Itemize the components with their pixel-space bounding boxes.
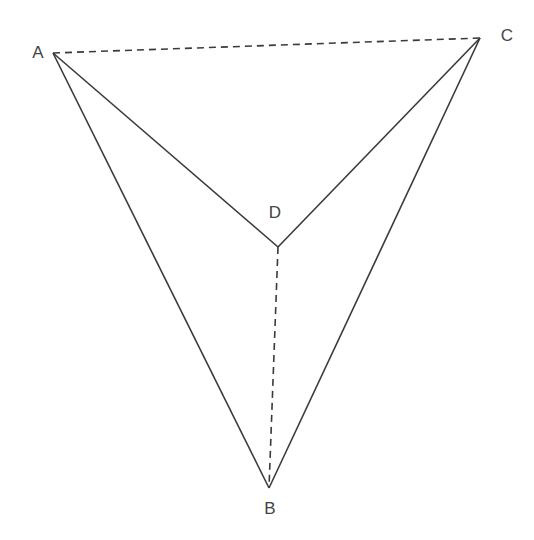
vertex-labels: ABCD (32, 26, 513, 518)
edge-db-dashed (269, 247, 278, 488)
edges (53, 38, 480, 488)
vertex-label-b: B (264, 499, 275, 518)
diagram-canvas: ABCD (0, 0, 534, 540)
vertex-label-c: C (501, 26, 513, 45)
edge-ab (53, 53, 269, 488)
vertex-label-a: A (32, 43, 44, 62)
edge-ac-dashed (53, 38, 480, 53)
edge-ad (53, 53, 278, 247)
geometry-figure: ABCD (0, 0, 534, 540)
edge-cd (278, 38, 480, 247)
edge-cb (269, 38, 480, 488)
vertex-label-d: D (269, 203, 281, 222)
